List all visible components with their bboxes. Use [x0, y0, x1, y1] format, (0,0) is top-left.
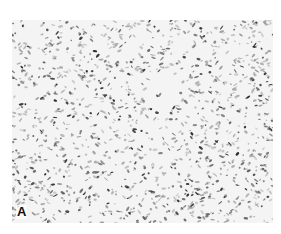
nuclei-pattern — [12, 20, 273, 223]
panel-label: A — [16, 205, 27, 219]
histology-micrograph — [12, 20, 273, 223]
